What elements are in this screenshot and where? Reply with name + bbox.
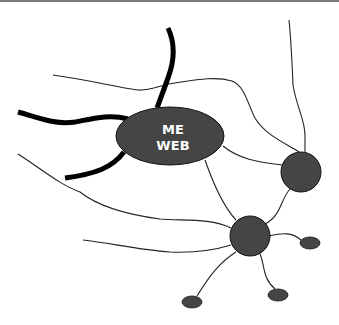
thick-line-left [18,112,128,123]
line-to-leaf-right [269,234,301,240]
nodes [116,107,321,308]
hub-node-bottom[interactable] [230,216,270,256]
line-to-leaf-bottom-right [260,254,275,289]
hub-node-right[interactable] [281,152,321,192]
thick-line-bottom-left [65,152,124,178]
network-diagram: ME WEB [0,0,339,325]
line-hubs [265,189,290,224]
line-left-down [18,154,231,228]
leaf-node-right[interactable] [300,237,320,249]
thick-line-top [157,28,173,108]
central-label-line1: ME [162,122,184,137]
leaf-node-bottom-left[interactable] [182,296,202,308]
line-me-to-hub-right [223,146,282,165]
line-me-to-hub-bottom [205,160,236,220]
line-left-lower [83,240,231,252]
leaf-node-bottom-right[interactable] [268,289,288,301]
central-label-line2: WEB [156,138,190,153]
line-top-right [289,20,305,152]
line-to-leaf-bottom-left [197,252,236,296]
